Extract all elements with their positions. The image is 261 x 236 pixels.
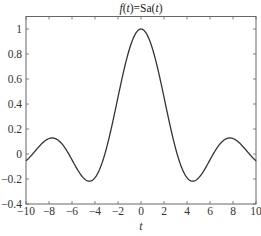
y-tick-label: 0.4 [8, 98, 23, 110]
x-tick-label: 6 [207, 205, 213, 217]
x-tick-label: −2 [112, 205, 124, 217]
y-tick-label: 0.6 [8, 73, 23, 85]
x-tick-label: 10 [250, 205, 261, 217]
x-tick-label: 0 [138, 205, 144, 217]
x-tick-label: 2 [161, 205, 167, 217]
y-tick-label: 0 [16, 148, 22, 160]
x-tick-label: −4 [89, 205, 101, 217]
sa-curve [26, 29, 256, 181]
x-tick-label: 4 [184, 205, 190, 217]
plot-area [26, 17, 256, 205]
y-tick-label: 0.8 [8, 48, 23, 60]
chart-title: f(t)=Sa(t) [120, 2, 163, 15]
y-tick-label: −0.2 [1, 173, 22, 185]
sa-function-chart: f(t)=Sa(t) −10−8−6−4−20246810 −0.4−0.200… [0, 0, 261, 236]
x-tick-label: −6 [66, 205, 78, 217]
x-axis-label: t [139, 219, 143, 233]
x-axis: −10−8−6−4−20246810 [17, 17, 261, 218]
y-tick-label: −0.4 [1, 198, 22, 210]
y-tick-label: 0.2 [8, 123, 23, 135]
x-tick-label: 8 [230, 205, 236, 217]
x-tick-label: −8 [43, 205, 55, 217]
y-tick-label: 1 [16, 23, 22, 35]
plot-frame [26, 17, 256, 205]
